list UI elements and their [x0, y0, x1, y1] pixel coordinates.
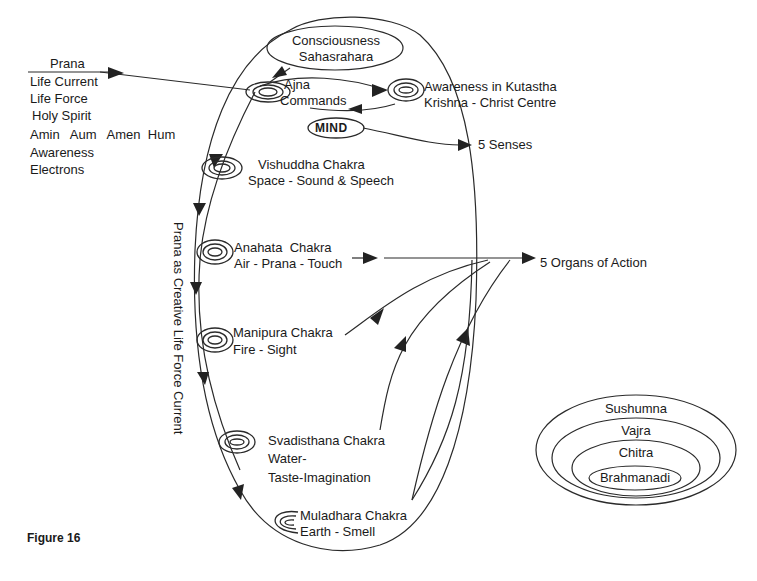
vishuddha-attr: Space - Sound & Speech: [248, 173, 394, 188]
svadisthana-name: Svadisthana Chakra: [268, 433, 385, 448]
crown-line1: Consciousness: [288, 33, 384, 48]
muladhara-name: Muladhara Chakra: [300, 508, 407, 523]
kutastha-coil-icon: [388, 79, 424, 101]
anahata-name: Anahata Chakra: [234, 240, 332, 255]
chakra-coil-icons: [197, 79, 424, 533]
manipura-attr: Fire - Sight: [233, 342, 297, 357]
svadisthana-coil-icon: [219, 431, 255, 453]
diagram-lines: [0, 0, 757, 581]
prana-line: Holy Spirit: [32, 108, 91, 123]
ajna-line1: Ajna: [284, 77, 310, 92]
prana-line: Electrons: [30, 162, 84, 177]
vishuddha-name: Vishuddha Chakra: [258, 157, 365, 172]
prana-line: Life Force: [30, 91, 88, 106]
vishuddha-coil-icon: [202, 157, 242, 179]
manipura-coil-icon: [197, 328, 233, 352]
svadisthana-attr2: Taste-Imagination: [268, 470, 371, 485]
prana-line: Life Current: [30, 74, 98, 89]
kutastha-line2: Krishna - Christ Centre: [424, 95, 556, 110]
ajna-line2: Commands: [280, 93, 346, 108]
figure-16-diagram: Prana Life Current Life Force Holy Spiri…: [0, 0, 757, 581]
manipura-name: Manipura Chakra: [233, 325, 333, 340]
nadi-vajra: Vajra: [586, 423, 686, 438]
muladhara-attr: Earth - Smell: [300, 524, 375, 539]
prana-line: Awareness: [30, 145, 94, 160]
kutastha-line1: Awareness in Kutastha: [424, 79, 557, 94]
nadi-sushumna: Sushumna: [586, 401, 686, 416]
organs-label: 5 Organs of Action: [540, 255, 647, 270]
nadi-chitra: Chitra: [586, 445, 686, 460]
crown-line2: Sahasrahara: [288, 49, 384, 64]
anahata-attr: Air - Prana - Touch: [234, 256, 342, 271]
senses-label: 5 Senses: [478, 137, 532, 152]
muladhara-coil-icon: [275, 512, 298, 533]
prana-title: Prana: [50, 56, 85, 71]
anahata-coil-icon: [197, 240, 233, 264]
vertical-prana-label: Prana as Creative Life Force Current: [171, 222, 186, 434]
mind-label: MIND: [315, 121, 348, 136]
prana-line: Amin Aum Amen Hum: [30, 127, 175, 142]
svadisthana-attr: Water-: [268, 451, 307, 466]
nadi-brahmanadi: Brahmanadi: [585, 470, 685, 485]
figure-label: Figure 16: [27, 531, 80, 546]
